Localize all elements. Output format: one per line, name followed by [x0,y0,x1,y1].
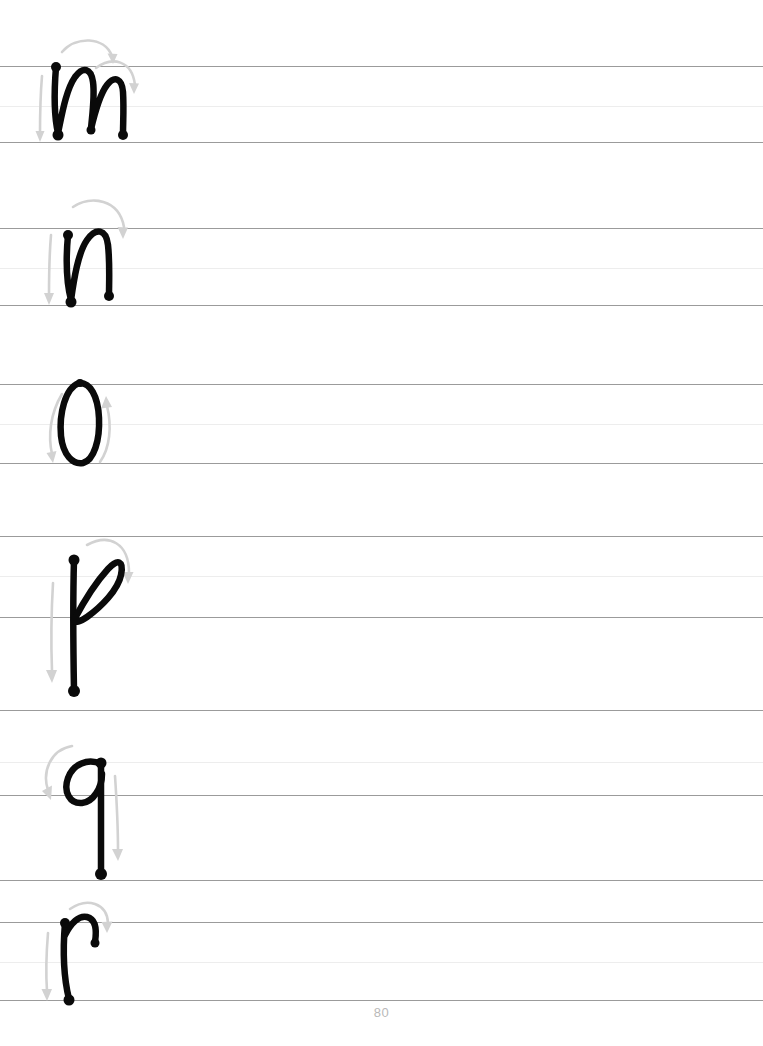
arrow-downstroke-n [49,235,51,295]
stroke-arrows-n [44,201,128,305]
letter-glyph-m [20,30,180,160]
arrow-downstroke-r [46,933,48,991]
letter-glyph-r [25,895,165,1020]
letter-glyph-n [25,195,175,320]
mid-dot-m [87,126,96,135]
arrow-head-downstroke-n [44,293,54,305]
arrow-head-downstroke-r [42,989,53,1001]
start-dot-q [96,758,107,769]
arrow-arch-n [73,201,124,227]
start-dot-p [69,555,80,566]
start-dot-o [76,379,84,387]
end-dot-n-2 [104,291,114,301]
end-dot-q [95,868,107,880]
arrow-arch1-m [62,40,112,56]
letter-glyph-o [30,370,170,485]
letter-stem-p [73,560,74,690]
letter-loop-p [74,562,122,621]
arrow-head-downstroke-m [36,131,45,142]
start-dot-n [63,230,73,240]
start-dot-m [51,62,61,72]
arrow-head-arch2-m [129,83,139,94]
rule-top-q [0,710,763,711]
letter-stroke-o [61,383,99,463]
arrow-head-right-o [101,396,112,409]
letter-stroke-m [55,67,124,134]
letter-hook-r [65,917,96,942]
start-dot-r [60,918,70,928]
arrow-head-hook-r [102,922,113,934]
arrow-head-descender-p [46,670,57,683]
worksheet-page: 80 [0,0,763,1046]
arrow-head-descender-q [112,849,123,861]
end-dot-m-1 [53,130,64,141]
letter-loop-q [66,762,102,803]
end-dot-p [68,685,80,697]
arrow-descender-p [51,583,53,671]
end-dot-n-1 [66,297,77,308]
arrow-downstroke-m [40,76,42,134]
end-dot-r-2 [91,939,100,948]
arrow-head-arch-n [118,227,129,239]
end-dot-m-2 [118,130,128,140]
letter-stroke-n [67,231,109,300]
end-dot-r-1 [64,995,75,1006]
letter-glyph-p [25,525,185,715]
arrow-head-left-o [47,451,57,463]
page-number: 80 [0,1005,763,1020]
letter-glyph-q [20,730,180,895]
arrow-descender-q [115,776,118,850]
